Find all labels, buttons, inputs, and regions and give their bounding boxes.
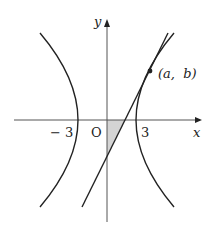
y-axis-label: y (93, 14, 102, 29)
tick-label-3: 3 (141, 125, 149, 140)
y-axis-arrow-icon (104, 19, 110, 27)
hyperbola-tangent-diagram: y x O − 3 3 (a, b) (0, 0, 212, 230)
tangent-point (148, 69, 153, 74)
x-axis-arrow-icon (195, 117, 202, 123)
x-axis-label: x (193, 125, 201, 140)
point-label: (a, b) (158, 66, 197, 81)
tick-label-neg-3: − 3 (50, 125, 73, 140)
origin-label: O (91, 125, 102, 140)
